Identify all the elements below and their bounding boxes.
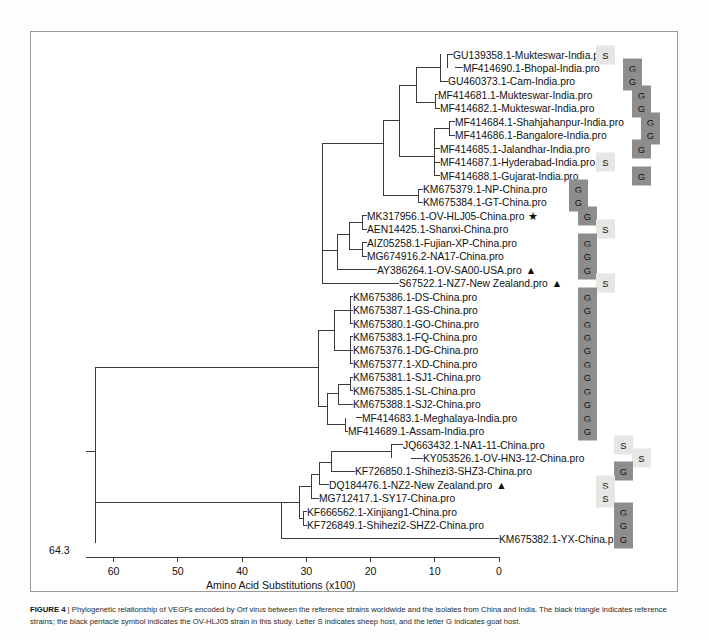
taxon-name: MK317956.1-OV-HLJ05-China.pro [367,210,524,221]
taxon-label: KM675386.1-DS-China.pro [353,291,477,302]
taxon-name: GU139358.1-Mukteswar-India.pro [453,49,608,60]
taxon-label: MF414681.1-Mukteswar-India.pro [438,89,593,100]
taxon-label: KF726850.1-Shihezi3-SHZ3-China.pro [355,466,532,477]
taxon-label: MF414684.1-Shahjahanpur-India.pro [455,116,624,127]
taxon-name: MF414687.1-Hyderabad-India.pro [440,157,595,168]
axis-tick-label: 60 [108,565,120,577]
taxon-label: MG712417.1-SY17-China.pro [319,493,455,504]
taxon-label: MF414685.1-Jalandhar-India.pro [440,143,590,154]
host-badge-goat: G [578,206,597,225]
taxon-name: KF666562.1-Xinjiang1-China.pro [307,506,457,517]
taxon-name: MF414689.1-Assam-India.pro [348,426,484,437]
axis-tick-label: 30 [300,565,312,577]
taxon-label: AEN14425.1-Shanxi-China.pro [367,224,508,235]
axis-tick-label: 40 [236,565,248,577]
taxon-label: MG674916.2-NA17-China.pro [367,251,504,262]
axis-tick-label: 0 [496,565,502,577]
study-star-icon: ★ [524,209,538,221]
taxon-name: KM675376.1-DG-China.pro [353,345,478,356]
figure-number: FIGURE 4 [30,605,65,614]
taxon-label: KM675380.1-GO-China.pro [353,318,479,329]
taxon-label: S67522.1-NZ7-New Zealand.pro▲ [399,278,562,289]
taxon-label: KM675387.1-GS-China.pro [353,305,478,316]
taxon-name: KY053526.1-OV-HN3-12-China.pro [423,453,584,464]
taxon-name: KM675381.1-SJ1-China.pro [353,372,481,383]
reference-triangle-icon: ▲ [492,478,506,490]
taxon-label: MF414688.1-Gujarat-India.pro [440,170,579,181]
taxon-label: KF666562.1-Xinjiang1-China.pro [307,506,457,517]
taxon-label: MF414689.1-Assam-India.pro [348,426,484,437]
taxon-label: KM675385.1-SL-China.pro [353,385,476,396]
taxon-label: MF414686.1-Bangalore-India.pro [455,130,607,141]
taxon-name: KM675388.1-SJ2-China.pro [353,399,481,410]
taxon-label: MF414687.1-Hyderabad-India.pro [440,157,595,168]
taxon-name: MF414682.1-Mukteswar-India.pro [440,103,595,114]
caption-text: Phylogenetic relationship of VEGFs encod… [30,605,667,626]
taxon-name: KF726850.1-Shihezi3-SHZ3-China.pro [355,466,532,477]
taxon-name: JQ663432.1-NA1-11-China.pro [403,439,545,450]
taxon-name: KM675380.1-GO-China.pro [353,318,479,329]
host-badge-sheep: S [596,153,615,172]
host-badge-sheep: S [596,274,615,293]
taxon-label: MF414683.1-Meghalaya-India.pro [362,412,517,423]
taxon-name: AY386264.1-OV-SA00-USA.pro [377,264,522,275]
taxon-name: AIZ05258.1-Fujian-XP-China.pro [367,237,517,248]
taxon-label: DQ184476.1-NZ2-New Zealand.pro▲ [329,479,507,490]
taxon-name: KM675382.1-YX-China.pro [499,533,623,544]
phylogenetic-tree-panel: GU139358.1-Mukteswar-India.proMF414690.1… [30,31,678,592]
taxon-label: KM675388.1-SJ2-China.pro [353,399,481,410]
taxon-name: S67522.1-NZ7-New Zealand.pro [399,278,548,289]
taxon-label: MF414682.1-Mukteswar-India.pro [440,103,595,114]
taxon-name: GU460373.1-Cam-India.pro [448,76,575,87]
axis-tick-label: 10 [429,565,441,577]
taxon-label: KM675379.1-NP-China.pro [423,184,547,195]
figure-page: GU139358.1-Mukteswar-India.proMF414690.1… [0,0,709,640]
axis-tick-label: 20 [365,565,377,577]
taxon-name: MF414683.1-Meghalaya-India.pro [362,412,517,423]
axis-title: Amino Acid Substitutions (x100) [206,579,356,591]
taxon-name: KM675386.1-DS-China.pro [353,291,477,302]
host-badge-goat: G [614,529,633,548]
taxon-label: KM675377.1-XD-China.pro [353,358,477,369]
taxon-name: MF414684.1-Shahjahanpur-India.pro [455,116,624,127]
taxon-label: AY386264.1-OV-SA00-USA.pro▲ [377,264,536,275]
taxon-name: KF726849.1-Shihezi2-SHZ2-China.pro [307,520,484,531]
taxon-name: KM675377.1-XD-China.pro [353,358,477,369]
host-badge-goat: G [632,139,651,158]
host-badge-sheep: S [596,45,615,64]
taxon-label: MF414690.1-Bhopal-India.pro [463,62,600,73]
axis-tick-label: 50 [172,565,184,577]
taxon-name: KM675384.1-GT-China.pro [423,197,547,208]
taxon-name: AEN14425.1-Shanxi-China.pro [367,224,508,235]
taxon-label: KM675384.1-GT-China.pro [423,197,547,208]
reference-triangle-icon: ▲ [522,263,536,275]
taxon-name: MF414690.1-Bhopal-India.pro [463,62,600,73]
taxon-label: GU460373.1-Cam-India.pro [448,76,575,87]
host-badge-goat: G [578,260,597,279]
taxon-label: KF726849.1-Shihezi2-SHZ2-China.pro [307,520,484,531]
taxon-name: KM675379.1-NP-China.pro [423,184,547,195]
host-badge-sheep: S [596,489,615,508]
taxon-name: DQ184476.1-NZ2-New Zealand.pro [329,479,492,490]
taxon-label: GU139358.1-Mukteswar-India.pro [453,49,608,60]
taxon-label: MK317956.1-OV-HLJ05-China.pro★ [367,210,538,221]
host-badge-goat: G [614,462,633,481]
taxon-name: KM675385.1-SL-China.pro [353,385,476,396]
taxon-name: KM675387.1-GS-China.pro [353,305,478,316]
taxon-label: KM675381.1-SJ1-China.pro [353,372,481,383]
host-badge-sheep: S [632,449,651,468]
taxon-name: MF414681.1-Mukteswar-India.pro [438,89,593,100]
host-badge-goat: G [578,422,597,441]
host-badge-sheep: S [596,220,615,239]
taxon-label: KM675383.1-FQ-China.pro [353,331,477,342]
taxon-name: KM675383.1-FQ-China.pro [353,331,477,342]
reference-triangle-icon: ▲ [548,277,562,289]
host-badge-sheep: S [614,435,633,454]
taxon-label: KM675376.1-DG-China.pro [353,345,478,356]
taxon-label: KY053526.1-OV-HN3-12-China.pro [423,453,584,464]
root-distance-value: 64.3 [49,544,70,556]
taxon-label: AIZ05258.1-Fujian-XP-China.pro [367,237,517,248]
taxon-label: JQ663432.1-NA1-11-China.pro [403,439,545,450]
taxon-name: MF414688.1-Gujarat-India.pro [440,170,579,181]
taxon-name: MG674916.2-NA17-China.pro [367,251,504,262]
